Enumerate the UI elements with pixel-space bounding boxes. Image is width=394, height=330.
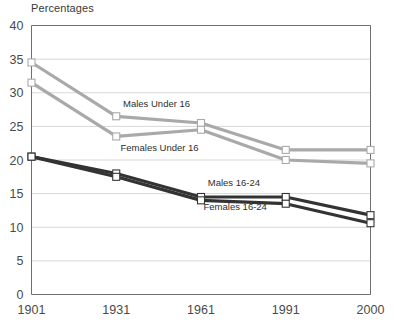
series-line — [32, 157, 371, 216]
series-annotation-label: Females 16-24 — [204, 201, 267, 212]
data-point-marker — [28, 153, 35, 160]
data-point-marker — [198, 120, 205, 127]
y-axis-tick-labels: 0510152025303540 — [10, 19, 24, 302]
y-tick-label: 20 — [10, 154, 24, 168]
x-tick-label: 1901 — [18, 303, 46, 317]
series-annotation-label: Males 16-24 — [208, 177, 260, 188]
y-tick-label: 10 — [10, 221, 24, 235]
y-tick-label: 30 — [10, 86, 24, 100]
data-point-marker — [198, 126, 205, 133]
x-tick-label: 1961 — [187, 303, 215, 317]
line-chart-plot: 0510152025303540 19011931196119912000 Ma… — [0, 0, 394, 330]
series-annotation-label: Males Under 16 — [123, 98, 190, 109]
y-tick-label: 15 — [10, 187, 24, 201]
data-point-marker — [282, 193, 289, 200]
data-point-marker — [282, 200, 289, 207]
y-tick-label: 5 — [17, 254, 24, 268]
y-tick-label: 0 — [17, 288, 24, 302]
data-point-markers — [28, 59, 374, 227]
data-point-marker — [113, 173, 120, 180]
series-annotation-label: Females Under 16 — [120, 142, 198, 153]
data-point-marker — [367, 220, 374, 227]
data-point-marker — [28, 79, 35, 86]
data-point-marker — [367, 146, 374, 153]
x-tick-label: 2000 — [357, 303, 385, 317]
y-tick-label: 40 — [10, 19, 24, 33]
x-tick-label: 1991 — [272, 303, 300, 317]
data-point-marker — [282, 157, 289, 164]
x-axis-tick-labels: 19011931196119912000 — [18, 303, 385, 317]
data-point-marker — [28, 59, 35, 66]
series-line — [32, 62, 371, 149]
chart-container: Percentages 0510152025303540 19011931196… — [0, 0, 394, 330]
data-point-marker — [113, 133, 120, 140]
data-point-marker — [113, 113, 120, 120]
data-point-marker — [367, 212, 374, 219]
data-point-marker — [367, 160, 374, 167]
x-tick-label: 1931 — [102, 303, 130, 317]
grid-lines — [32, 26, 371, 261]
y-tick-label: 25 — [10, 120, 24, 134]
y-tick-label: 35 — [10, 53, 24, 67]
data-point-marker — [282, 146, 289, 153]
